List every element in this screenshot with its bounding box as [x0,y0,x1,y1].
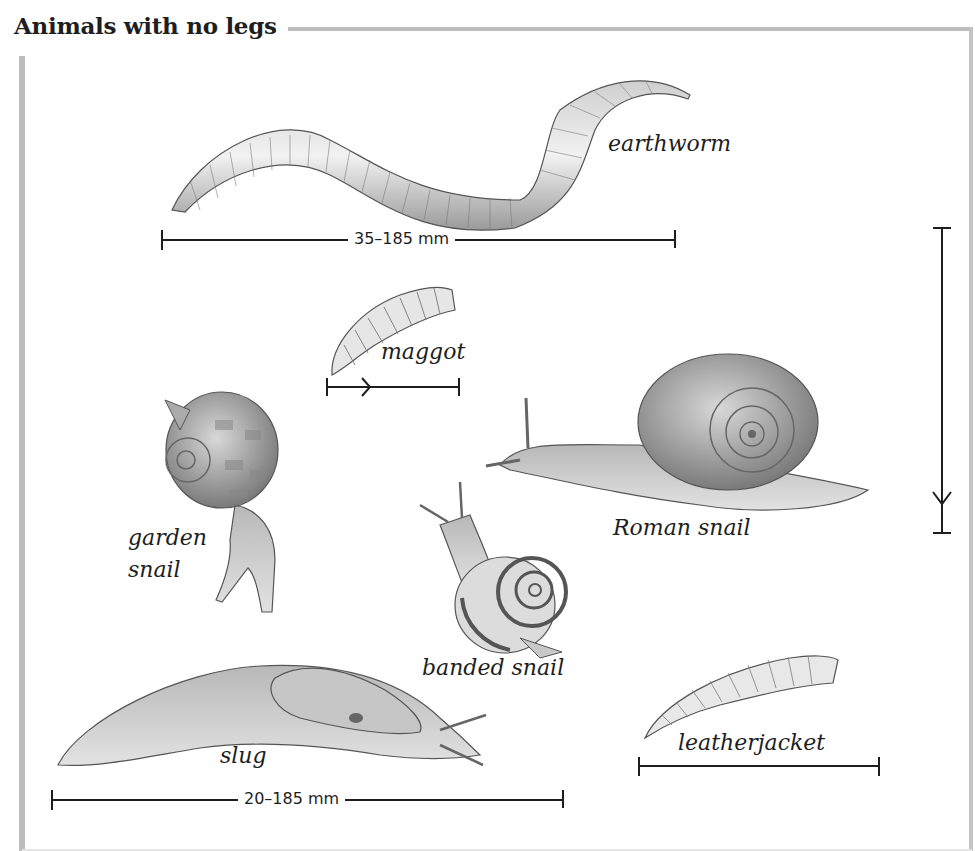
garden-snail-illustration [165,392,278,612]
slug-illustration [58,665,486,765]
leatherjacket-label: leatherjacket [678,731,825,755]
roman-snail-label: Roman snail [613,516,751,540]
maggot-label: maggot [381,340,465,364]
illustration-canvas [0,0,975,851]
garden-snail-label-line2: snail [128,558,181,582]
leatherjacket-scale-bar [639,757,879,776]
banded-snail-illustration [420,482,566,658]
roman-snail-illustration [486,354,868,510]
garden-snail-label-line1: garden [128,526,207,550]
slug-size-range: 20–185 mm [238,789,345,808]
vertical-scale-bar [933,228,951,533]
banded-snail-label: banded snail [422,656,564,680]
leatherjacket-illustration [645,655,838,738]
maggot-scale-bar [327,378,459,396]
earthworm-size-range: 35–185 mm [348,229,455,248]
slug-label: slug [220,744,267,768]
earthworm-label: earthworm [608,132,731,156]
